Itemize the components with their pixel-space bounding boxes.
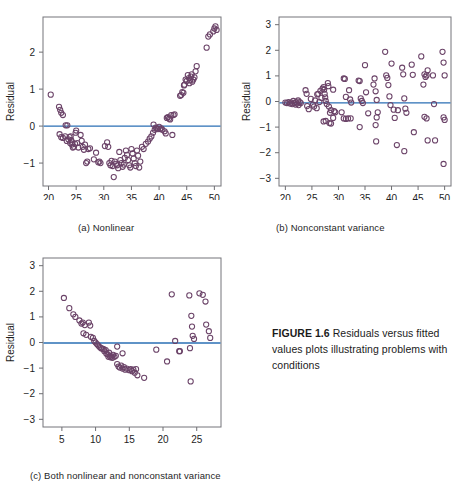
y-tick-label: 0 <box>29 121 35 132</box>
x-tick-label: 30 <box>333 193 345 200</box>
x-tick-label: 25 <box>191 434 203 445</box>
y-tick-label: 3 <box>29 260 35 271</box>
y-tick-label: 1 <box>265 70 271 81</box>
x-tick-label: 10 <box>90 434 102 445</box>
data-point <box>374 139 379 144</box>
data-point <box>373 122 378 127</box>
x-tick-label: 35 <box>126 193 138 200</box>
y-tick-label: −2 <box>24 388 36 399</box>
data-point <box>138 159 143 164</box>
data-point <box>411 130 416 135</box>
y-axis-title: Residual <box>5 82 16 121</box>
data-point <box>48 92 53 97</box>
data-point <box>402 149 407 154</box>
data-point <box>304 91 309 96</box>
data-point <box>421 82 426 87</box>
data-points <box>61 291 213 384</box>
y-tick-label: 3 <box>265 19 271 30</box>
data-point <box>419 54 424 59</box>
data-point <box>386 83 391 88</box>
data-point <box>430 73 435 78</box>
data-point <box>348 97 353 102</box>
x-tick-label: 25 <box>306 193 318 200</box>
data-point <box>170 132 175 137</box>
panel-c-subcaption: (c) Both nonlinear and nonconstant varia… <box>30 470 221 481</box>
data-point <box>392 115 397 120</box>
x-tick-label: 5 <box>59 434 65 445</box>
data-point <box>188 379 193 384</box>
data-point <box>441 161 446 166</box>
data-point <box>189 324 194 329</box>
data-point <box>142 375 147 380</box>
data-point <box>440 49 445 54</box>
data-point <box>375 110 380 115</box>
data-point <box>425 68 430 73</box>
data-point <box>111 175 116 180</box>
y-tick-label: 2 <box>29 286 35 297</box>
data-point <box>374 115 379 120</box>
data-point <box>120 351 125 356</box>
y-axis-title: Residual <box>5 323 16 362</box>
data-point <box>432 138 437 143</box>
data-point <box>194 64 199 69</box>
data-points <box>48 24 219 180</box>
scatter-plot-b: 20253035404550−3−2−10123YHatResidual <box>236 0 467 200</box>
data-point <box>303 88 308 93</box>
x-tick-label: 25 <box>71 193 83 200</box>
y-tick-label: −1 <box>24 158 36 169</box>
data-point <box>357 125 362 130</box>
data-point <box>402 96 407 101</box>
panel-a-subcaption: (a) Nonlinear <box>78 222 134 233</box>
y-tick-label: −3 <box>260 173 272 184</box>
panel-c-both: 510152025−3−2−10123YHatResidual (c) Both… <box>0 248 240 448</box>
x-tick-label: 40 <box>154 193 166 200</box>
data-point <box>401 72 406 77</box>
data-point <box>134 148 139 153</box>
y-tick-label: 2 <box>29 47 35 58</box>
data-point <box>409 62 414 67</box>
data-point <box>442 73 447 78</box>
data-point <box>204 322 209 327</box>
x-tick-label: 40 <box>386 193 398 200</box>
data-point <box>331 115 336 120</box>
data-point <box>187 346 192 351</box>
data-point <box>371 82 376 87</box>
y-tick-label: 0 <box>29 337 35 348</box>
y-tick-label: 0 <box>265 96 271 107</box>
x-tick-label: 45 <box>413 193 425 200</box>
y-tick-label: 1 <box>29 84 35 95</box>
data-point <box>115 344 120 349</box>
data-points <box>283 49 447 166</box>
data-point <box>383 49 388 54</box>
y-axis-title: Residual <box>241 82 252 121</box>
data-point <box>331 87 336 92</box>
x-tick-label: 30 <box>98 193 110 200</box>
figure-number: FIGURE 1.6 <box>272 327 330 339</box>
data-point <box>394 142 399 147</box>
x-tick-label: 20 <box>157 434 169 445</box>
data-point <box>373 89 378 94</box>
data-point <box>362 63 367 68</box>
x-tick-label: 20 <box>280 193 292 200</box>
data-point <box>339 110 344 115</box>
data-point <box>346 88 351 93</box>
data-point <box>164 359 169 364</box>
panel-b-nonconstant-variance: 20253035404550−3−2−10123YHatResidual (b)… <box>236 0 467 200</box>
y-tick-label: −1 <box>260 122 272 133</box>
data-point <box>78 132 83 137</box>
data-point <box>206 329 211 334</box>
scatter-plot-a: 20253035404550−1012YHatResidual <box>0 0 240 200</box>
data-point <box>203 299 208 304</box>
x-tick-label: 15 <box>124 434 136 445</box>
data-point <box>154 347 159 352</box>
data-point <box>400 65 405 70</box>
panel-b-subcaption: (b) Nonconstant variance <box>276 222 385 233</box>
data-point <box>204 45 209 50</box>
data-point <box>93 150 98 155</box>
x-tick-label: 35 <box>359 193 371 200</box>
scatter-plot-c: 510152025−3−2−10123YHatResidual <box>0 248 240 448</box>
data-point <box>374 97 379 102</box>
data-point <box>363 90 368 95</box>
y-tick-label: −1 <box>24 363 36 374</box>
data-point <box>387 94 392 99</box>
